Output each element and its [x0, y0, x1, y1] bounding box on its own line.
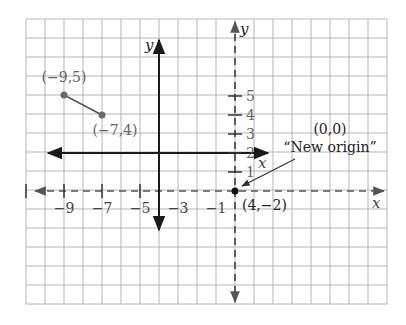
y-tick-labels: 1 2 3 4 5: [246, 88, 255, 180]
grid: [26, 19, 387, 304]
x-tick-label: −7: [92, 200, 113, 216]
solid-y-axis-label: y: [144, 36, 154, 54]
y-tick-label: 3: [246, 126, 255, 142]
x-tick-label: −5: [130, 200, 151, 216]
dashed-y-axis-label: y: [239, 20, 249, 38]
point-a-label: (−9,5): [42, 69, 87, 85]
dashed-x-axis-label: x: [372, 194, 381, 212]
x-tick-label: −9: [54, 200, 75, 216]
point-b-label: (−7,4): [93, 122, 138, 138]
y-tick-label: 4: [246, 107, 255, 123]
point-b: [99, 112, 106, 119]
new-origin-point: [232, 188, 239, 195]
solid-x-axis-label: x: [258, 154, 267, 172]
coordinate-graph: −9 −7 −5 −3 −1 1 2 3 4 5 y x y x (−9,5) …: [0, 0, 406, 325]
annotation-text: “New origin”: [283, 139, 376, 155]
x-tick-label: −1: [206, 200, 227, 216]
annotation-coords: (0,0): [313, 121, 346, 137]
y-tick-label: 5: [246, 88, 255, 104]
dashed-axes: [35, 22, 384, 302]
point-a: [61, 92, 68, 99]
x-tick-labels: −9 −7 −5 −3 −1: [54, 200, 227, 216]
y-tick-label: 2: [246, 145, 255, 161]
x-tick-label: −3: [168, 200, 189, 216]
new-origin-coords-label: (4,−2): [242, 197, 287, 213]
y-tick-label: 1: [246, 164, 255, 180]
